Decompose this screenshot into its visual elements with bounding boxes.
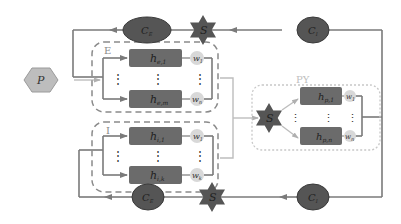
weight-p-n: wn <box>344 130 356 142</box>
unit-i-k: hi,k <box>129 166 182 184</box>
unit-e-m: he,m <box>129 90 182 108</box>
ellipsis-p-mid: ⋮ <box>323 112 334 125</box>
ellipsis-i-mid: ⋮ <box>152 149 164 163</box>
unit-p-1: hp,1 <box>300 87 342 105</box>
ellipse-c-bottom-left: CE <box>132 184 164 210</box>
ellipsis-e-right: ⋮ <box>194 72 206 86</box>
weight-i-k: wk <box>190 168 204 182</box>
svg-text:P: P <box>36 74 45 87</box>
group-PY-label: PY <box>296 74 310 85</box>
svg-text:S: S <box>200 24 208 37</box>
weight-p-1: w1 <box>344 90 356 102</box>
ellipse-c-bottom-right: CI <box>297 184 329 210</box>
unit-e-1: he,1 <box>129 49 182 67</box>
ellipsis-e-left: ⋮ <box>112 72 124 86</box>
ellipsis-i-left: ⋮ <box>112 149 124 163</box>
svg-text:S: S <box>266 112 274 125</box>
ellipse-c-top-left: CE <box>123 17 171 43</box>
weight-e-n: wn <box>190 92 204 106</box>
ellipse-c-top-right: CI <box>297 17 329 43</box>
unit-i-1: hi,1 <box>129 127 182 145</box>
group-I-label: I <box>106 125 110 136</box>
unit-p-n: hp,n <box>300 127 342 145</box>
star-s-py: S <box>256 103 282 133</box>
ellipsis-p-left: ⋮ <box>290 112 301 125</box>
weight-e-1: w1 <box>190 51 204 65</box>
input-P-hexagon: P <box>24 68 58 92</box>
feedback-lines <box>73 30 382 197</box>
group-E-label: E <box>104 45 111 56</box>
ellipsis-e-mid: ⋮ <box>152 72 164 86</box>
weight-i-1: w1 <box>190 129 204 143</box>
ellipsis-p-right: ⋮ <box>347 112 358 125</box>
ellipsis-i-right: ⋮ <box>194 149 206 163</box>
network-diagram: E I PY he,1 he,m w1 wn ⋮ ⋮ ⋮ hi,1 hi,k w… <box>0 0 401 224</box>
svg-text:S: S <box>209 191 217 204</box>
